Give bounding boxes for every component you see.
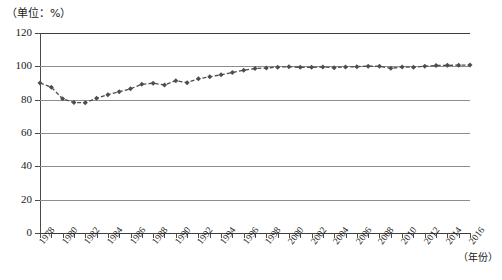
x-tick-label: 2016 [467,225,487,246]
x-tick-label: 1998 [263,225,283,246]
data-point-marker [241,68,246,73]
gridline [40,66,470,67]
y-tick-mark [35,100,40,101]
series-line [40,65,470,103]
unit-caption: （单位：%） [6,8,71,20]
x-tick-label: 2012 [422,225,442,246]
gridline [40,133,470,134]
y-tick-mark [35,33,40,34]
data-point-marker [219,72,224,77]
data-point-marker [83,100,88,105]
data-point-marker [162,83,167,88]
gridline [40,100,470,101]
x-tick-label: 1986 [128,225,148,246]
x-tick-label: 2002 [309,225,329,246]
data-point-marker [207,74,212,79]
x-axis-title: （年份） [458,252,498,263]
x-tick-label: 2004 [331,225,351,246]
data-point-marker [128,86,133,91]
gridline [40,166,470,167]
x-tick-label: 1980 [60,225,80,246]
y-tick-label: 80 [2,94,32,105]
data-point-marker [49,85,54,90]
x-tick-label: 1990 [173,225,193,246]
x-tick-label: 1982 [82,225,102,246]
x-tick-label: 2008 [376,225,396,246]
x-tick-label: 2010 [399,225,419,246]
y-tick-label: 40 [2,160,32,171]
y-tick-label: 60 [2,127,32,138]
data-point-marker [151,81,156,86]
x-tick-label: 1988 [150,225,170,246]
x-tick-label: 1994 [218,225,238,246]
data-point-marker [105,92,110,97]
y-tick-mark [35,200,40,201]
data-point-marker [185,80,190,85]
chart-container: （单位：%） 020406080100120 19781980198219841… [0,0,502,280]
x-tick-label: 1984 [105,225,125,246]
y-tick-mark [35,66,40,67]
data-point-marker [196,76,201,81]
x-tick-label: 2006 [354,225,374,246]
y-tick-label: 20 [2,194,32,205]
data-point-marker [139,82,144,87]
y-tick-label: 100 [2,60,32,71]
y-tick-label: 0 [2,227,32,238]
data-point-marker [117,89,122,94]
x-tick-label: 2014 [444,225,464,246]
y-tick-mark [35,133,40,134]
gridline [40,200,470,201]
y-tick-label: 120 [2,27,32,38]
x-tick-label: 1996 [241,225,261,246]
x-tick-label: 1992 [195,225,215,246]
data-point-marker [230,70,235,75]
data-point-marker [71,100,76,105]
plot-top-border [40,33,470,34]
y-tick-mark [35,166,40,167]
x-tick-label: 2000 [286,225,306,246]
data-point-marker [173,78,178,83]
